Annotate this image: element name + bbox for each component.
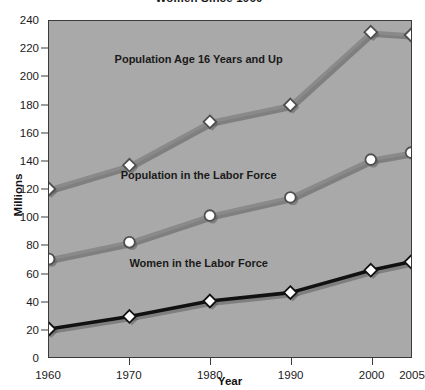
y-tick-mark <box>41 329 48 330</box>
y-tick-mark <box>41 132 48 133</box>
chart-title: Women Since 1960 <box>0 0 418 4</box>
y-tick-mark <box>41 217 48 218</box>
y-tick-mark <box>41 48 48 49</box>
series-marker <box>406 147 411 158</box>
series-marker <box>365 154 376 165</box>
plot-area: Population Age 16 Years and UpPopulation… <box>48 20 412 358</box>
plot-svg <box>49 21 411 357</box>
series-marker <box>49 254 54 265</box>
x-tick-mark <box>291 358 292 365</box>
series-3 <box>49 255 411 337</box>
y-tick-mark <box>41 189 48 190</box>
y-tick-label: 80 <box>26 239 39 251</box>
y-tick-label: 240 <box>20 14 39 26</box>
series-marker <box>124 237 135 248</box>
series-line <box>49 262 411 329</box>
y-tick-mark <box>41 245 48 246</box>
series-marker <box>205 210 216 221</box>
y-axis: 020406080100120140160180200220240 <box>0 0 48 390</box>
y-tick-mark <box>41 273 48 274</box>
y-tick-label: 160 <box>20 127 39 139</box>
x-tick-mark <box>210 358 211 365</box>
x-tick-mark <box>372 358 373 365</box>
y-tick-label: 220 <box>20 42 39 54</box>
y-tick-label: 200 <box>20 70 39 82</box>
series-marker <box>405 29 411 42</box>
y-tick-mark <box>41 104 48 105</box>
y-tick-label: 180 <box>20 99 39 111</box>
y-tick-label: 60 <box>26 268 39 280</box>
series-2 <box>49 147 411 267</box>
y-tick-mark <box>41 160 48 161</box>
x-axis-title: Year <box>48 375 412 387</box>
series-marker <box>285 192 296 203</box>
y-tick-mark <box>41 76 48 77</box>
y-tick-label: 20 <box>26 324 39 336</box>
y-axis-title: Millions <box>12 150 24 240</box>
x-tick-mark <box>129 358 130 365</box>
y-tick-label: 40 <box>26 296 39 308</box>
y-tick-mark <box>41 301 48 302</box>
